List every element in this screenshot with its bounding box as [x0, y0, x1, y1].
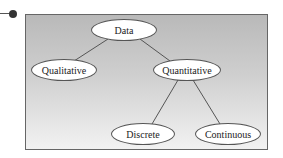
- node-data: Data: [91, 19, 157, 41]
- edge-data-quantitative: [140, 39, 170, 61]
- node-quantitative: Quantitative: [153, 59, 221, 81]
- node-continuous: Continuous: [195, 123, 261, 145]
- node-qualitative: Qualitative: [31, 59, 97, 81]
- edge-quantitative-continuous: [193, 80, 220, 124]
- edge-quantitative-discrete: [152, 80, 178, 124]
- node-discrete: Discrete: [111, 123, 175, 145]
- edge-data-qualitative: [74, 39, 108, 61]
